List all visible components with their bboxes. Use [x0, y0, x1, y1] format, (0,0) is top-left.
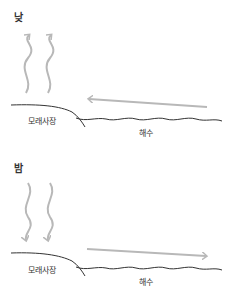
- sea-surface: [76, 267, 222, 270]
- day-sea-label: 해수: [139, 130, 153, 138]
- sea-breeze-diagram: [0, 0, 236, 303]
- heat-sinking-arrow-1: [26, 183, 31, 240]
- night-land-label: 모래사장: [28, 267, 56, 275]
- heat-rising-arrow-2: [47, 35, 54, 93]
- night-sea-label: 해수: [139, 279, 153, 287]
- day-panel: [11, 35, 222, 127]
- sea-surface: [76, 118, 222, 121]
- day-land-label: 모래사장: [28, 118, 56, 126]
- night-panel: [11, 183, 222, 276]
- day-title: 낮: [14, 13, 23, 23]
- night-title: 밤: [14, 164, 23, 174]
- land-breeze-arrow: [87, 249, 206, 256]
- heat-rising-arrow-1: [25, 35, 32, 93]
- sea-breeze-arrow: [89, 99, 207, 107]
- heat-sinking-arrow-2: [48, 183, 53, 240]
